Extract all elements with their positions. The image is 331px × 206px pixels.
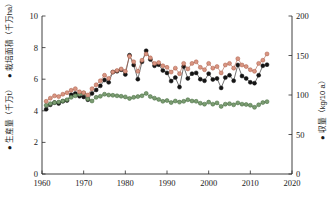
right-axis-label-yield: ● 収量（kg/10 a） bbox=[317, 76, 327, 140]
data-point bbox=[244, 102, 248, 106]
tick-label: 2 bbox=[34, 137, 38, 147]
data-point bbox=[165, 71, 169, 75]
data-point bbox=[123, 69, 127, 73]
data-point bbox=[211, 102, 215, 106]
data-point bbox=[219, 104, 223, 108]
data-point bbox=[107, 80, 111, 84]
data-point bbox=[161, 64, 165, 68]
data-point bbox=[44, 103, 48, 107]
x-axis-ticks bbox=[42, 171, 292, 175]
data-point bbox=[173, 66, 177, 70]
data-point bbox=[190, 72, 194, 76]
data-point bbox=[123, 95, 127, 99]
data-point bbox=[240, 74, 244, 78]
data-point bbox=[53, 94, 57, 98]
data-point bbox=[194, 71, 198, 75]
data-point bbox=[261, 58, 265, 62]
data-point bbox=[98, 94, 102, 98]
data-point bbox=[203, 102, 207, 106]
data-point bbox=[232, 103, 236, 107]
data-point bbox=[169, 101, 173, 105]
data-point bbox=[48, 96, 52, 100]
data-point bbox=[148, 56, 152, 60]
data-point bbox=[223, 63, 227, 67]
data-point bbox=[165, 65, 169, 69]
data-point bbox=[136, 69, 140, 73]
data-point bbox=[157, 97, 161, 101]
data-point bbox=[198, 77, 202, 81]
data-point bbox=[215, 101, 219, 105]
data-point bbox=[115, 94, 119, 98]
data-point bbox=[236, 101, 240, 105]
data-point bbox=[257, 73, 261, 77]
series-layer bbox=[44, 49, 269, 111]
tick-label: 200 bbox=[296, 11, 309, 21]
data-point bbox=[223, 102, 227, 106]
data-point bbox=[253, 69, 257, 73]
tick-label: 2000 bbox=[200, 178, 217, 188]
data-point bbox=[53, 101, 57, 105]
data-point bbox=[107, 93, 111, 97]
data-point bbox=[94, 95, 98, 99]
x-axis-tick-labels: 1960197019801990200020102020 bbox=[34, 178, 301, 188]
data-point bbox=[132, 95, 136, 99]
data-point bbox=[157, 61, 161, 65]
data-point bbox=[128, 96, 132, 100]
data-point bbox=[153, 61, 157, 65]
data-point bbox=[182, 61, 186, 65]
data-point bbox=[236, 57, 240, 61]
data-point bbox=[178, 100, 182, 104]
left-axis-label-production: ● 生産量（千万t） bbox=[4, 85, 14, 150]
data-point bbox=[265, 52, 269, 56]
data-point bbox=[111, 93, 115, 97]
data-point bbox=[73, 87, 77, 91]
data-point bbox=[103, 78, 107, 82]
data-point bbox=[119, 67, 123, 71]
data-point bbox=[98, 84, 102, 88]
chart-container: 0246810 050100150200 1960197019801990200… bbox=[0, 0, 331, 206]
data-point bbox=[219, 71, 223, 75]
data-point bbox=[132, 60, 136, 64]
left-axis-tick-labels: 0246810 bbox=[30, 11, 39, 179]
left-axis-label-area: ● 栽培面積（千万ha） bbox=[4, 0, 14, 78]
data-point bbox=[90, 91, 94, 95]
data-point bbox=[119, 94, 123, 98]
data-point bbox=[198, 65, 202, 69]
right-axis-ticks bbox=[289, 16, 293, 174]
data-point bbox=[86, 97, 90, 101]
data-point bbox=[103, 73, 107, 77]
tick-label: 150 bbox=[296, 51, 309, 61]
data-point bbox=[253, 105, 257, 109]
data-point bbox=[240, 102, 244, 106]
data-point bbox=[228, 61, 232, 65]
tick-label: 50 bbox=[296, 130, 305, 140]
data-point bbox=[173, 99, 177, 103]
data-point bbox=[219, 86, 223, 90]
data-point bbox=[69, 88, 73, 92]
data-point bbox=[161, 69, 165, 73]
data-point bbox=[190, 61, 194, 65]
data-point bbox=[194, 99, 198, 103]
data-point bbox=[244, 76, 248, 80]
right-axis-tick-labels: 050100150200 bbox=[296, 11, 309, 179]
series-2 bbox=[44, 91, 269, 109]
data-point bbox=[244, 65, 248, 69]
data-point bbox=[111, 70, 115, 74]
data-point bbox=[73, 94, 77, 98]
data-point bbox=[103, 92, 107, 96]
data-point bbox=[90, 99, 94, 103]
data-point bbox=[228, 73, 232, 77]
data-point bbox=[257, 61, 261, 65]
data-point bbox=[65, 91, 69, 95]
data-point bbox=[94, 83, 98, 87]
data-point bbox=[186, 76, 190, 80]
data-point bbox=[215, 65, 219, 69]
data-point bbox=[136, 95, 140, 99]
data-point bbox=[261, 101, 265, 105]
data-point bbox=[169, 70, 173, 74]
data-point bbox=[265, 100, 269, 104]
data-point bbox=[203, 68, 207, 72]
series-1 bbox=[44, 49, 269, 111]
tick-label: 1960 bbox=[34, 178, 51, 188]
tick-label: 1980 bbox=[117, 178, 134, 188]
